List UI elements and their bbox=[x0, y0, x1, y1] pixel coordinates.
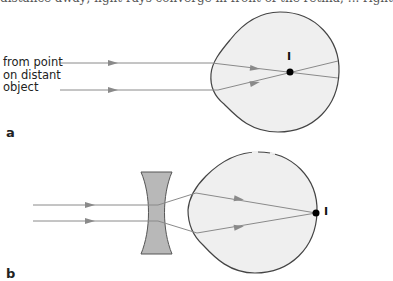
panel-label-b: b bbox=[6, 266, 15, 281]
focus-label-a: I bbox=[287, 50, 291, 63]
focus-label-b: I bbox=[324, 205, 328, 218]
focus-point-a bbox=[287, 69, 294, 76]
panel-label-a: a bbox=[6, 125, 15, 140]
source-label-line-1: from point bbox=[3, 56, 63, 69]
source-label-line-3: object bbox=[3, 81, 63, 94]
eyeball-b bbox=[188, 152, 317, 273]
eyeball-a bbox=[211, 12, 339, 132]
focus-point-b bbox=[313, 210, 320, 217]
source-label: from point on distant object bbox=[3, 56, 63, 94]
concave-lens bbox=[141, 172, 172, 254]
